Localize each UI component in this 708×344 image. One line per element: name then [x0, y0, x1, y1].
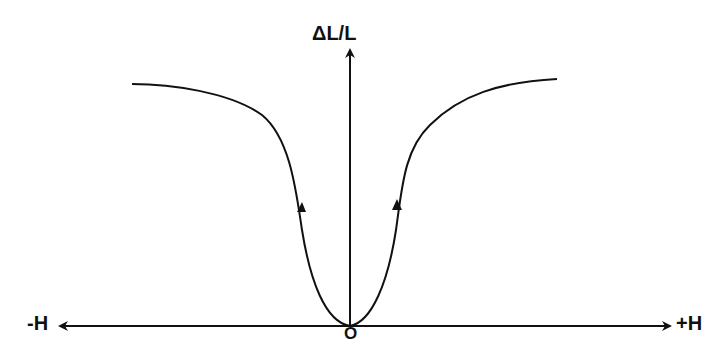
curve-right-branch: [350, 79, 557, 326]
origin-label: O: [344, 324, 357, 344]
magnetostriction-diagram: [0, 0, 708, 344]
x-axis-positive-label: +H: [676, 312, 702, 335]
x-axis-negative-label: -H: [27, 312, 48, 335]
curve-left-branch: [132, 84, 350, 326]
y-axis-label: ΔL/L: [312, 22, 356, 45]
